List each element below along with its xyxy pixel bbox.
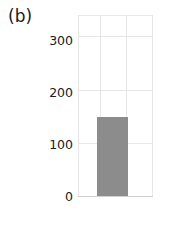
y-tick-label-300: 300 — [49, 35, 73, 48]
y-tick-label-200: 200 — [49, 87, 73, 100]
gridline-x-0 — [78, 15, 79, 197]
chart-figure: (b) 300 200 100 0 — [0, 0, 181, 226]
gridline-y-300 — [78, 36, 153, 37]
bar-series-0 — [97, 117, 128, 197]
plot-area — [78, 15, 153, 197]
gridline-y-top — [78, 15, 153, 16]
gridline-y-200 — [78, 90, 153, 91]
y-axis-tick-labels: 300 200 100 0 — [0, 0, 73, 226]
gridline-x-3 — [152, 15, 153, 197]
x-axis-baseline — [78, 196, 153, 197]
y-tick-label-0: 0 — [65, 191, 73, 204]
y-tick-label-100: 100 — [49, 139, 73, 152]
